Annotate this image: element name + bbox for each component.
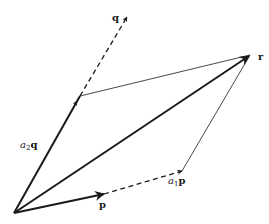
r-vector bbox=[14, 56, 249, 213]
a1p-vector-symbol: p bbox=[178, 175, 185, 186]
parallelogram-side-top bbox=[80, 55, 250, 96]
vector-diagram: q r a2q p a1p bbox=[0, 0, 269, 224]
diagram-svg bbox=[0, 0, 269, 224]
label-a2q: a2q bbox=[20, 140, 37, 152]
label-q: q bbox=[112, 13, 119, 23]
a2q-vector-symbol: q bbox=[30, 139, 37, 150]
label-p: p bbox=[99, 200, 106, 210]
parallelogram-side-right bbox=[182, 55, 250, 171]
label-a1p: a1p bbox=[168, 176, 185, 188]
label-r: r bbox=[258, 52, 263, 62]
a2q-vector bbox=[14, 96, 80, 213]
q-direction-dashed bbox=[80, 17, 127, 96]
